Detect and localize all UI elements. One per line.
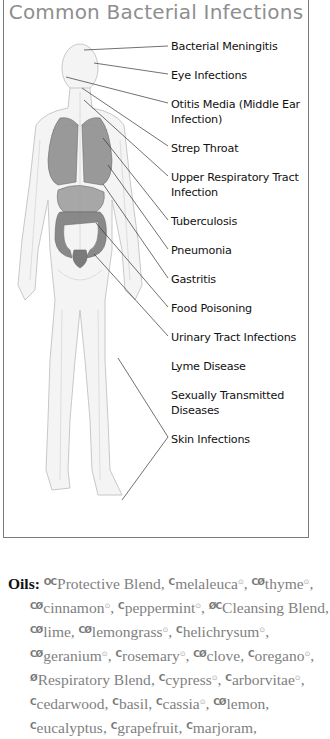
oil-name: cypress [165, 671, 212, 688]
label-pneumonia: Pneumonia [171, 243, 306, 258]
usage-icon: CØ [30, 625, 42, 635]
usage-icon: CØ [252, 577, 264, 587]
safety-icon: ⊙ [304, 578, 310, 586]
oil-name: cassia [163, 695, 200, 712]
safety-icon: ⊙ [295, 674, 301, 682]
oil-name: cinnamon [43, 599, 104, 616]
oil-item: CØlime [30, 623, 71, 640]
oil-name: Protective Blend [57, 575, 161, 592]
safety-icon: ⊙ [200, 698, 206, 706]
oils-heading: Oils: [8, 575, 40, 592]
label-eye-infections: Eye Infections [171, 68, 306, 83]
oil-name: Cleansing Blend [222, 599, 325, 616]
usage-icon: C [115, 649, 121, 659]
oil-name: clove [207, 647, 241, 664]
oil-item: Carborvitae⊙ [225, 671, 300, 688]
oil-item: Cpeppermint⊙ [118, 599, 201, 616]
usage-icon: C [159, 673, 165, 683]
oil-name: basil [119, 695, 148, 712]
oil-item: Ccedarwood [30, 695, 105, 712]
oil-item: Ccypress⊙ [159, 671, 218, 688]
label-otitis-media: Otitis Media (Middle Ear Infection) [171, 97, 306, 127]
safety-icon: ⊙ [238, 578, 244, 586]
safety-icon: ⊙ [162, 626, 168, 634]
oil-name: lime [43, 623, 71, 640]
usage-icon: ØC [209, 601, 221, 611]
safety-icon: ⊙ [195, 602, 201, 610]
usage-icon: CØ [193, 649, 205, 659]
usage-icon: C [156, 697, 162, 707]
usage-icon: CØ [213, 697, 225, 707]
oil-name: oregano [255, 647, 305, 664]
usage-icon: C [30, 721, 36, 731]
safety-icon: ⊙ [102, 650, 108, 658]
usage-icon: C [248, 649, 254, 659]
oil-item: CØthyme⊙ [252, 575, 310, 592]
oil-item: CØlemongrass⊙ [79, 623, 169, 640]
oil-name: geranium [43, 647, 102, 664]
label-food-poisoning: Food Poisoning [171, 301, 306, 316]
usage-icon: CØ [30, 601, 42, 611]
oil-item: Cmelaleuca⊙ [169, 575, 244, 592]
oil-item: OCProtective Blend [44, 575, 161, 592]
oil-name: grapefruit [117, 719, 178, 736]
oil-item: ØRespiratory Blend [30, 671, 151, 688]
oil-name: Respiratory Blend [38, 671, 151, 688]
oil-name: lemongrass [92, 623, 163, 640]
head-shape [62, 44, 98, 92]
oil-item: Crosemary⊙ [115, 647, 185, 664]
usage-icon: CØ [79, 625, 91, 635]
label-tuberculosis: Tuberculosis [171, 214, 306, 229]
stomach-liver [57, 185, 104, 212]
label-lyme-disease: Lyme Disease [171, 359, 306, 374]
label-upper-respiratory: Upper Respiratory Tract Infection [171, 170, 306, 200]
label-std: Sexually Transmitted Diseases [171, 388, 306, 418]
oil-item: Coregano⊙ [248, 647, 310, 664]
label-gastritis: Gastritis [171, 272, 306, 287]
usage-icon: C [112, 697, 118, 707]
usage-icon: CØ [30, 649, 42, 659]
oils-paragraph: Oils: OCProtective Blend, Cmelaleuca⊙, C… [8, 571, 330, 739]
usage-icon: C [169, 577, 175, 587]
oil-name: thyme [265, 575, 304, 592]
usage-icon: Ø [30, 673, 37, 683]
usage-icon: C [225, 673, 231, 683]
oil-item: Cmarjoram [186, 719, 253, 736]
usage-icon: C [30, 697, 36, 707]
label-strep-throat: Strep Throat [171, 141, 306, 156]
label-urinary-tract: Urinary Tract Infections [171, 330, 306, 345]
usage-icon: OC [44, 577, 56, 587]
oil-item: CØgeranium⊙ [30, 647, 108, 664]
oil-item: Cbasil [112, 695, 148, 712]
safety-icon: ⊙ [180, 650, 186, 658]
oil-name: melaleuca [175, 575, 238, 592]
safety-icon: ⊙ [259, 626, 265, 634]
safety-icon: ⊙ [212, 674, 218, 682]
usage-icon: C [186, 721, 192, 731]
oil-name: eucalyptus [37, 719, 103, 736]
oil-name: arborvitae [232, 671, 295, 688]
oil-item: Cgrapefruit [111, 719, 179, 736]
oil-name: cedarwood [37, 695, 105, 712]
oil-name: peppermint [125, 599, 196, 616]
oil-item: Ccassia⊙ [156, 695, 206, 712]
oil-item: Chelichrysum⊙ [176, 623, 265, 640]
label-bacterial-meningitis: Bacterial Meningitis [171, 39, 306, 54]
oil-item: Ceucalyptus [30, 719, 103, 736]
oil-item: ØCCleansing Blend [209, 599, 325, 616]
label-skin-infections: Skin Infections [171, 432, 306, 447]
oil-item: CØclove [193, 647, 240, 664]
oil-item: CØcinnamon⊙ [30, 599, 110, 616]
oil-item: CØlemon [213, 695, 265, 712]
safety-icon: ⊙ [104, 602, 110, 610]
usage-icon: C [176, 625, 182, 635]
usage-icon: C [118, 601, 124, 611]
oil-name: rosemary [122, 647, 180, 664]
usage-icon: C [111, 721, 117, 731]
safety-icon: ⊙ [304, 650, 310, 658]
oil-name: lemon [227, 695, 266, 712]
oil-name: marjoram [193, 719, 253, 736]
oil-name: helichrysum [183, 623, 260, 640]
